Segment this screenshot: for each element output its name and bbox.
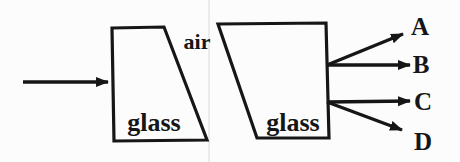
ray-d-arrow xyxy=(327,102,402,130)
ray-d-label: D xyxy=(414,128,432,155)
left-glass-label: glass xyxy=(127,108,180,137)
ray-b-label: B xyxy=(413,51,430,78)
ray-diagram-figure: air glass glass A B C D xyxy=(0,0,460,162)
ray-a-label: A xyxy=(411,13,429,40)
air-gap-label: air xyxy=(184,29,211,54)
ray-a-arrow xyxy=(327,34,403,65)
ray-c-arrow xyxy=(327,101,410,102)
right-glass-label: glass xyxy=(266,108,319,137)
ray-c-label: C xyxy=(414,88,432,115)
diagram-svg: air glass glass A B C D xyxy=(0,0,460,162)
